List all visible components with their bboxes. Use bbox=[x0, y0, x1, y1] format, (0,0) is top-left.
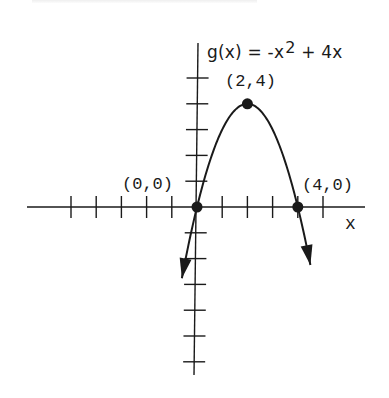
title-term2: + 4x bbox=[296, 42, 343, 62]
vertex-label: (2,4) bbox=[225, 73, 276, 90]
title-term1: -x bbox=[268, 42, 285, 62]
root-label: (4,0) bbox=[302, 177, 353, 194]
key-points bbox=[192, 98, 304, 212]
point-marker bbox=[292, 202, 303, 213]
x-axis-label: x bbox=[345, 215, 356, 233]
title-exponent: 2 bbox=[285, 38, 295, 57]
point-marker bbox=[242, 98, 253, 109]
origin-label: (0,0) bbox=[122, 176, 173, 193]
point-marker bbox=[192, 202, 203, 213]
title-prefix: g(x) = bbox=[207, 42, 268, 62]
curve-arrowheads bbox=[180, 244, 313, 278]
function-title: g(x) = -x2 + 4x bbox=[207, 44, 343, 61]
